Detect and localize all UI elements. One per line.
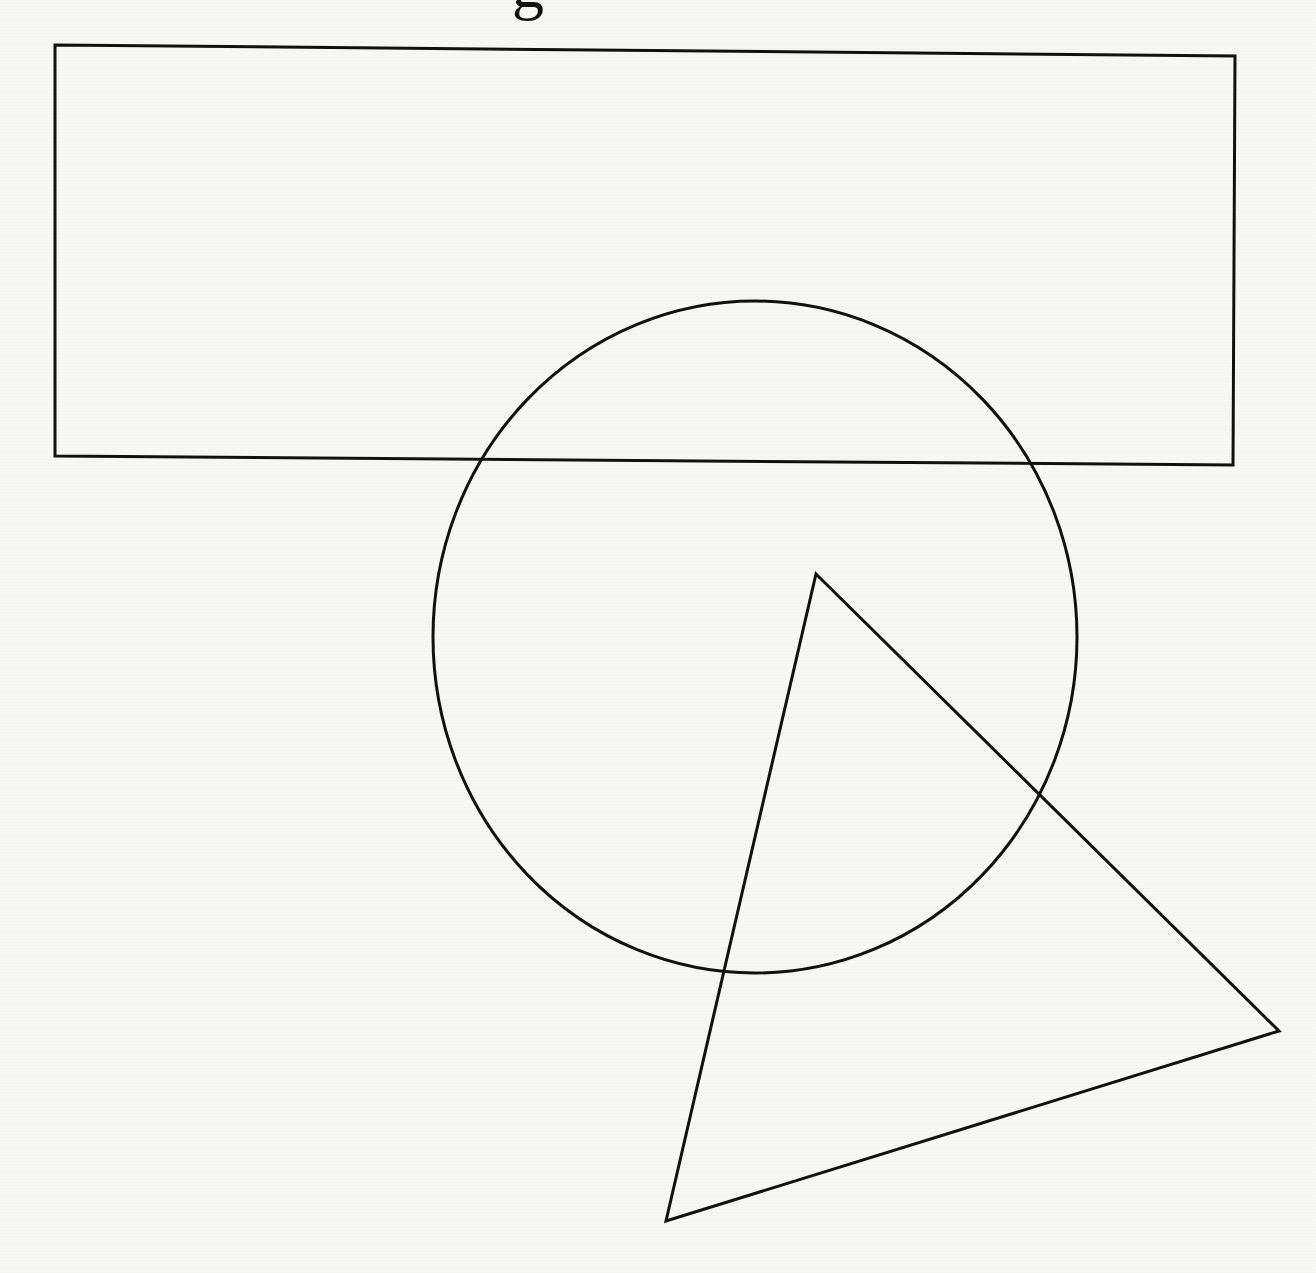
shapes-canvas	[0, 0, 1316, 1273]
rectangle-shape	[55, 45, 1235, 465]
circle-shape	[433, 301, 1077, 973]
diagram-page: g	[0, 0, 1316, 1273]
triangle-shape	[666, 574, 1279, 1221]
